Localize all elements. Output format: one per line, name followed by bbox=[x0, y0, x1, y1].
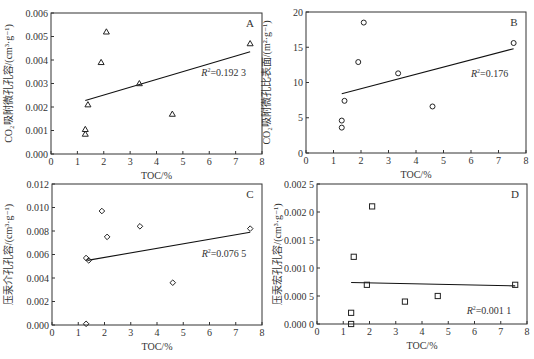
x-tick-label: 5 bbox=[180, 156, 185, 167]
x-tick-label: 3 bbox=[393, 326, 398, 337]
x-tick-label: 2 bbox=[101, 156, 106, 167]
data-point-diamond bbox=[83, 321, 89, 327]
panel-letter: D bbox=[511, 188, 519, 200]
x-tick-label: 6 bbox=[472, 326, 477, 337]
r-squared-label: R2=0.076 5 bbox=[201, 248, 247, 259]
panel-letter: A bbox=[246, 17, 254, 29]
y-axis-title: CO₂吸附微孔孔容/(cm³·g⁻¹) bbox=[2, 24, 15, 143]
x-tick-label: 2 bbox=[102, 327, 107, 338]
data-point-circle bbox=[361, 20, 366, 25]
x-tick-label: 1 bbox=[76, 327, 81, 338]
x-tick-label: 4 bbox=[420, 326, 425, 337]
panel-b: 01234567805101520TOC/%CO₂吸附微孔比表面/(m²·g⁻¹… bbox=[260, 7, 529, 181]
y-tick-label: 0.002 5 bbox=[284, 179, 314, 190]
x-tick-label: 3 bbox=[128, 327, 133, 338]
y-tick-label: 0.001 5 bbox=[284, 235, 314, 246]
y-tick-label: 0.000 0 bbox=[284, 319, 314, 330]
data-point-circle bbox=[396, 71, 401, 76]
y-axis-title: CO₂吸附微孔比表面/(m²·g⁻¹) bbox=[260, 20, 273, 144]
x-axis-title: TOC/% bbox=[401, 169, 432, 180]
x-tick-label: 2 bbox=[367, 326, 372, 337]
x-axis-title: TOC/% bbox=[142, 341, 173, 352]
y-tick-label: 0.000 bbox=[27, 320, 50, 331]
x-tick-label: 5 bbox=[181, 327, 186, 338]
x-axis-title: TOC/% bbox=[141, 170, 172, 181]
y-tick-label: 0.004 bbox=[26, 55, 49, 66]
data-point-square bbox=[435, 293, 440, 298]
data-point-circle bbox=[430, 104, 435, 109]
y-tick-label: 0.002 0 bbox=[284, 207, 314, 218]
data-point-circle bbox=[356, 60, 361, 65]
y-tick-label: 0.001 bbox=[26, 125, 49, 136]
data-point-diamond bbox=[170, 280, 176, 286]
x-tick-label: 3 bbox=[128, 156, 133, 167]
data-point-circle bbox=[511, 41, 516, 46]
x-tick-label: 8 bbox=[524, 155, 529, 166]
y-tick-label: 0.006 bbox=[27, 249, 50, 260]
y-tick-label: 0.006 bbox=[26, 8, 49, 19]
x-tick-label: 3 bbox=[386, 155, 391, 166]
data-point-circle bbox=[339, 125, 344, 130]
panel-c: 0123456780.0000.0020.0040.0060.0080.0100… bbox=[2, 179, 265, 353]
data-point-diamond bbox=[104, 234, 110, 240]
x-tick-label: 4 bbox=[155, 327, 160, 338]
y-tick-label: 0.005 bbox=[26, 31, 49, 42]
figure-2x2-scatter-panels: 0123456780.0000.0010.0020.0030.0040.0050… bbox=[0, 0, 534, 359]
panel-d: 0123456780.000 00.000 50.001 00.001 50.0… bbox=[271, 179, 530, 352]
x-tick-label: 7 bbox=[496, 155, 501, 166]
data-point-circle bbox=[342, 98, 347, 103]
x-tick-label: 6 bbox=[469, 155, 474, 166]
r-squared-label: R2=0.192 3 bbox=[200, 67, 246, 78]
data-point-triangle bbox=[247, 41, 253, 46]
x-tick-label: 6 bbox=[207, 156, 212, 167]
x-axis-title: TOC/% bbox=[407, 340, 438, 351]
plot-frame bbox=[317, 184, 527, 324]
y-tick-label: 0.012 bbox=[27, 179, 50, 190]
x-tick-label: 7 bbox=[233, 156, 238, 167]
x-tick-label: 7 bbox=[498, 326, 503, 337]
data-point-diamond bbox=[137, 224, 143, 230]
y-tick-label: 0.001 0 bbox=[284, 263, 314, 274]
y-tick-label: 0.002 bbox=[27, 296, 50, 307]
y-tick-label: 20 bbox=[293, 7, 303, 18]
r-squared-label: R2=0.001 1 bbox=[466, 305, 512, 316]
x-tick-label: 1 bbox=[75, 156, 80, 167]
data-point-circle bbox=[339, 118, 344, 123]
data-point-triangle bbox=[85, 102, 91, 107]
plot-frame bbox=[306, 12, 526, 153]
y-axis-title: 压汞宏孔孔容/(cm³·g⁻¹) bbox=[271, 203, 284, 304]
r-squared-label: R2=0.176 bbox=[470, 68, 508, 79]
data-point-diamond bbox=[247, 226, 253, 232]
x-tick-label: 2 bbox=[359, 155, 364, 166]
y-tick-label: 15 bbox=[293, 42, 303, 53]
y-tick-label: 0.008 bbox=[27, 226, 50, 237]
x-tick-label: 8 bbox=[525, 326, 530, 337]
x-tick-label: 0 bbox=[49, 156, 54, 167]
y-tick-label: 10 bbox=[293, 77, 303, 88]
data-point-triangle bbox=[103, 29, 109, 34]
y-tick-label: 0.000 bbox=[26, 149, 49, 160]
data-point-triangle bbox=[98, 59, 104, 64]
plot-frame bbox=[51, 13, 262, 154]
y-tick-label: 0.010 bbox=[27, 202, 50, 213]
y-tick-label: 0.003 bbox=[26, 78, 49, 89]
x-tick-label: 8 bbox=[260, 156, 265, 167]
x-tick-label: 5 bbox=[446, 326, 451, 337]
data-point-triangle bbox=[169, 111, 175, 116]
y-axis-title: 压汞介孔孔容/(cm³·g⁻¹) bbox=[2, 204, 15, 305]
x-tick-label: 8 bbox=[260, 327, 265, 338]
x-tick-label: 0 bbox=[50, 327, 55, 338]
x-tick-label: 1 bbox=[341, 326, 346, 337]
x-tick-label: 0 bbox=[315, 326, 320, 337]
x-tick-label: 5 bbox=[441, 155, 446, 166]
x-tick-label: 1 bbox=[331, 155, 336, 166]
y-tick-label: 0.004 bbox=[27, 273, 50, 284]
y-tick-label: 5 bbox=[298, 112, 303, 123]
data-point-square bbox=[513, 282, 518, 287]
y-tick-label: 0.002 bbox=[26, 102, 49, 113]
data-point-square bbox=[370, 204, 375, 209]
data-point-square bbox=[349, 310, 354, 315]
x-tick-label: 0 bbox=[304, 155, 309, 166]
y-tick-label: 0 bbox=[298, 148, 303, 159]
panel-letter: B bbox=[510, 16, 517, 28]
